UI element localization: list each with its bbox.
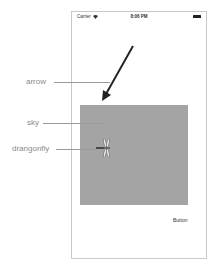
phone-frame: Carrier 8:06 PM Button [71, 11, 207, 259]
status-time: 8:06 PM [72, 14, 206, 19]
annotation-arrow-label: arrow [26, 78, 46, 86]
annotation-sky-line [43, 123, 105, 124]
annotation-dragonfly-label: drangonfly [12, 145, 49, 153]
status-bar: Carrier 8:06 PM [72, 12, 206, 21]
annotation-arrow-line [54, 82, 110, 83]
annotation-dragonfly-line [56, 149, 96, 150]
annotation-sky-label: sky [27, 119, 39, 127]
button[interactable]: Button [173, 217, 187, 223]
battery-icon [193, 15, 201, 19]
sky-view [80, 105, 188, 205]
